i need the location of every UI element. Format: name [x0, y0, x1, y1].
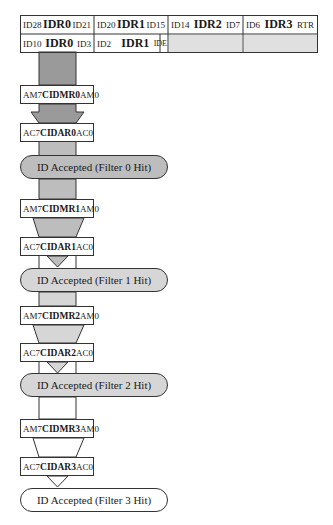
- register-name: IDR1: [121, 36, 149, 51]
- bit-label: AM0: [80, 90, 99, 100]
- register-name: IDR0: [43, 17, 71, 32]
- register-name: IDR0: [45, 36, 73, 51]
- bit-label: ID28: [23, 20, 42, 30]
- register-name: IDR2: [194, 17, 222, 32]
- bit-label: AC0: [76, 348, 93, 358]
- bit-label: AM0: [80, 311, 99, 321]
- bit-label: AC7: [23, 128, 40, 138]
- register-name: CIDAR3: [40, 462, 76, 472]
- bit-label: ID3: [77, 39, 91, 49]
- bit-label: ID6: [246, 20, 260, 30]
- bit-label: ID14: [171, 20, 190, 30]
- acceptance-register-0: AC7 CIDAR0 AC0: [20, 123, 94, 142]
- register-name: CIDMR1: [42, 204, 80, 214]
- bit-label: AM7: [23, 424, 42, 434]
- register-name: CIDAR1: [40, 242, 76, 252]
- id-cell-idr1-low: ID2 IDR1 IDE: [94, 34, 168, 53]
- filter-0-hit: ID Accepted (Filter 0 Hit): [20, 155, 168, 179]
- filter-2-hit: ID Accepted (Filter 2 Hit): [20, 373, 168, 397]
- bit-label: IDE: [154, 39, 167, 48]
- bit-label: AM0: [80, 204, 99, 214]
- flow-diagram: [0, 0, 333, 525]
- bit-label: AC7: [23, 242, 40, 252]
- register-name: CIDMR0: [42, 90, 80, 100]
- register-name: CIDAR2: [40, 348, 76, 358]
- bit-label: AC0: [76, 128, 93, 138]
- filter-1-hit: ID Accepted (Filter 1 Hit): [20, 268, 168, 292]
- bit-label: ID10: [23, 39, 42, 49]
- acceptance-register-3: AC7 CIDAR3 AC0: [20, 457, 94, 476]
- bit-label: ID21: [72, 20, 91, 30]
- bit-label: AM7: [23, 204, 42, 214]
- id-cell-idr0-high: ID28 IDR0 ID21: [20, 15, 94, 34]
- bit-label: AC0: [76, 242, 93, 252]
- bit-label: AM7: [23, 90, 42, 100]
- register-name: IDR3: [265, 17, 293, 32]
- id-cell-idr2: ID14 IDR2 ID7: [168, 15, 243, 34]
- bit-label: AC7: [23, 348, 40, 358]
- id-cell-idr1-high: ID20 IDR1 ID15: [94, 15, 168, 34]
- acceptance-register-1: AC7 CIDAR1 AC0: [20, 237, 94, 256]
- register-name: CIDAR0: [40, 128, 76, 138]
- id-cell-idr0-low: ID10 IDR0 ID3: [20, 34, 94, 53]
- id-cell-idr3: ID6 IDR3 RTR: [243, 15, 317, 34]
- filter-3-hit: ID Accepted (Filter 3 Hit): [20, 488, 168, 512]
- bit-label: RTR: [297, 20, 314, 30]
- bit-label: AC7: [23, 462, 40, 472]
- bit-label: AM7: [23, 311, 42, 321]
- bit-label: AC0: [76, 462, 93, 472]
- bit-label: ID2: [97, 39, 111, 49]
- mask-register-1: AM7 CIDMR1 AM0: [20, 199, 94, 218]
- mask-register-2: AM7 CIDMR2 AM0: [20, 306, 94, 325]
- register-name: CIDMR3: [42, 424, 80, 434]
- acceptance-register-2: AC7 CIDAR2 AC0: [20, 343, 94, 362]
- mask-register-3: AM7 CIDMR3 AM0: [20, 419, 94, 438]
- bit-label: AM0: [80, 424, 99, 434]
- bit-label: ID7: [226, 20, 240, 30]
- register-name: CIDMR2: [42, 311, 80, 321]
- bit-label: ID20: [97, 20, 116, 30]
- mask-register-0: AM7 CIDMR0 AM0: [20, 85, 94, 104]
- register-name: IDR1: [117, 17, 145, 32]
- bit-label: ID15: [146, 20, 165, 30]
